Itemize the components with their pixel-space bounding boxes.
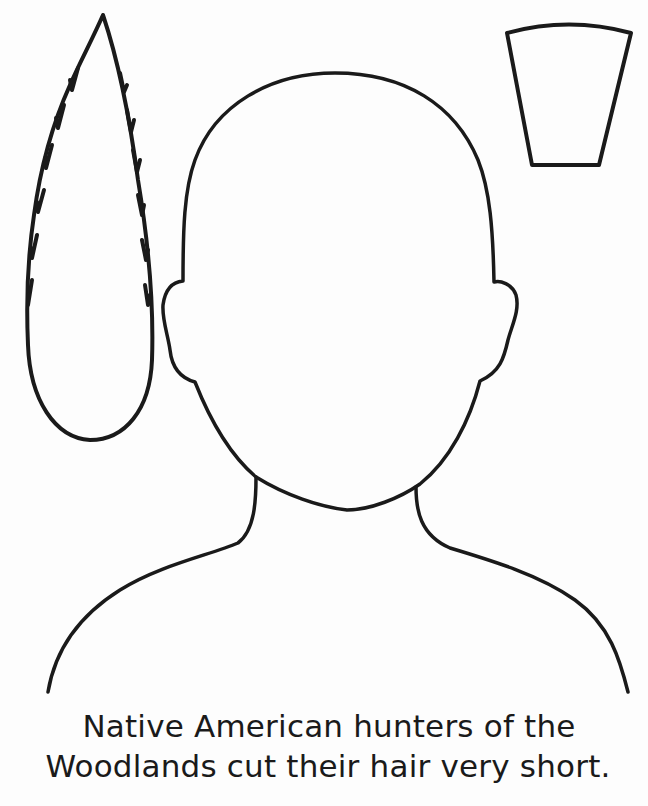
worksheet-caption: Native American hunters of the Woodlands… — [0, 706, 648, 786]
feather-cutout — [27, 15, 152, 440]
headband-cutout — [507, 25, 631, 166]
caption-line-2: Woodlands cut their hair very short. — [0, 746, 648, 786]
worksheet-artwork — [0, 0, 648, 806]
coloring-worksheet: Native American hunters of the Woodlands… — [0, 0, 648, 806]
caption-line-1: Native American hunters of the — [0, 706, 648, 746]
